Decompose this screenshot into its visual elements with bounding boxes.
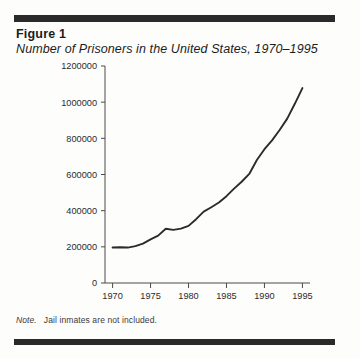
x-axis-tick-label: 1970	[102, 291, 122, 301]
note-body: Jail inmates are not included.	[44, 315, 157, 325]
y-axis-tick-label: 200000	[66, 242, 97, 252]
y-axis-tick-label: 1200000	[61, 61, 97, 71]
figure-card: Figure 1 Number of Prisoners in the Unit…	[0, 0, 360, 359]
y-axis-tick-label: 1000000	[61, 98, 97, 108]
prisoners-line-chart: 0200000400000600000800000100000012000001…	[0, 0, 360, 330]
x-axis-tick-label: 1980	[178, 291, 198, 301]
note-label: Note.	[16, 315, 37, 325]
x-axis-tick-label: 1995	[292, 291, 312, 301]
figure-note: Note.Jail inmates are not included.	[16, 315, 157, 325]
y-axis-tick-label: 0	[92, 278, 97, 288]
y-axis-tick-label: 400000	[66, 206, 97, 216]
x-axis-tick-label: 1990	[254, 291, 274, 301]
data-line-prisoners	[113, 88, 303, 248]
x-axis-tick-label: 1975	[140, 291, 160, 301]
y-axis-tick-label: 800000	[66, 134, 97, 144]
chart-plot-area: 0200000400000600000800000100000012000001…	[0, 0, 360, 330]
y-axis-tick-label: 600000	[66, 170, 97, 180]
x-axis-tick-label: 1985	[216, 291, 236, 301]
bottom-rule	[14, 339, 335, 345]
